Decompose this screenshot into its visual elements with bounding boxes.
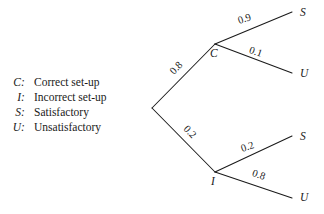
probability-tree-figure: C: Correct set-up I: Incorrect set-up S:… (0, 0, 324, 214)
leaf-label-incorrect-unsatisfactory: U (300, 192, 308, 204)
leaf-label-incorrect-satisfactory: S (300, 131, 306, 143)
edge-root-to-incorrect (152, 108, 215, 172)
tree-edges (0, 0, 324, 214)
edge-root-to-correct (152, 44, 215, 108)
leaf-label-correct-unsatisfactory: U (300, 68, 308, 80)
node-label-incorrect: I (211, 176, 215, 188)
node-label-correct: C (210, 48, 218, 60)
edge-correct-to-satisfactory (215, 12, 292, 44)
leaf-label-correct-satisfactory: S (300, 7, 306, 19)
